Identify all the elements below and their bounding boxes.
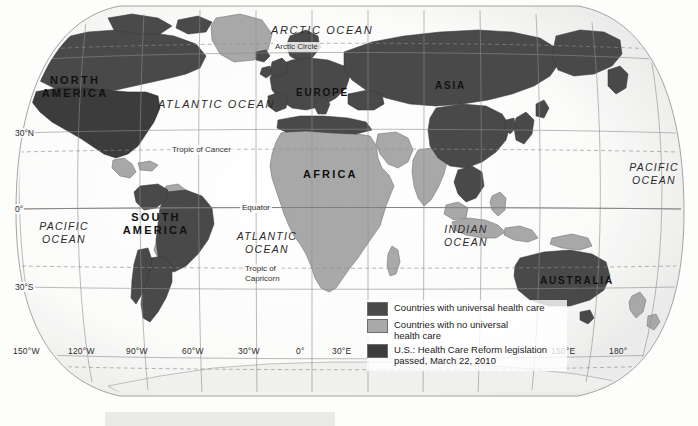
- legend-label-universal: Countries with universal health care: [394, 302, 545, 313]
- legend-label-line1: Countries with no universal: [394, 319, 508, 330]
- legend-label-line1: U.S.: Health Care Reform legislation: [394, 344, 547, 355]
- legend-swatch-no-universal: [367, 319, 388, 333]
- page-edge-shadow: [105, 412, 335, 426]
- legend-item-no-universal: Countries with no universal health care: [367, 319, 567, 341]
- legend-label-us-reform: U.S.: Health Care Reform legislation pas…: [394, 344, 547, 366]
- legend-label-line2: health care: [394, 330, 508, 341]
- map-canvas: [0, 0, 698, 426]
- world-map-figure: NORTH AMERICA SOUTH AMERICA EUROPE AFRIC…: [0, 0, 698, 426]
- legend-label-line1: Countries with universal health care: [394, 302, 545, 313]
- legend-label-line2: passed, March 22, 2010: [394, 355, 547, 366]
- legend-label-no-universal: Countries with no universal health care: [394, 319, 508, 341]
- legend-item-universal: Countries with universal health care: [367, 302, 567, 316]
- map-legend: Countries with universal health care Cou…: [367, 300, 567, 371]
- legend-swatch-us-reform: [367, 344, 388, 358]
- legend-item-us-reform: U.S.: Health Care Reform legislation pas…: [367, 344, 567, 366]
- legend-swatch-universal: [367, 302, 388, 316]
